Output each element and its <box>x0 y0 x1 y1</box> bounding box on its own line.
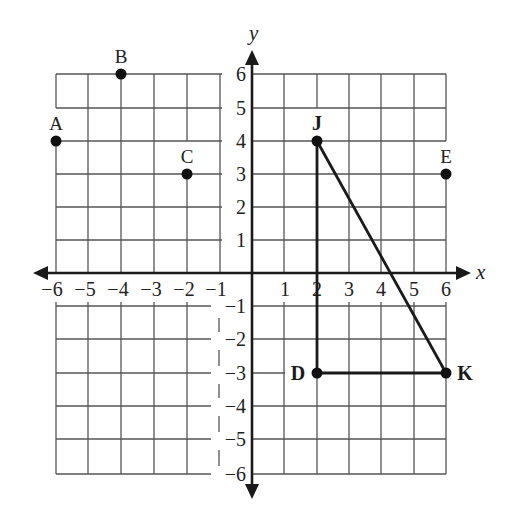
x-tick: −2 <box>173 278 194 300</box>
point-d-label: D <box>291 362 305 384</box>
x-axis-right-arrow-icon <box>456 266 471 280</box>
y-tick: −5 <box>225 428 246 450</box>
point-k-label: K <box>457 362 473 384</box>
point-c-dot <box>182 169 193 180</box>
point-b-label: B <box>115 46 128 67</box>
point-e-dot <box>441 169 452 180</box>
x-tick: −6 <box>41 278 62 300</box>
y-tick: 4 <box>236 130 246 152</box>
x-tick: −4 <box>107 278 128 300</box>
x-tick: 1 <box>280 278 290 300</box>
y-tick: 3 <box>236 163 246 185</box>
point-b-dot <box>116 69 127 80</box>
point-c: C <box>181 146 194 180</box>
point-k-dot <box>441 368 452 379</box>
x-tick-labels: −6 −5 −4 −3 −2 −1 1 2 3 4 5 6 <box>41 278 451 300</box>
point-a: A <box>49 113 63 147</box>
y-tick: −4 <box>225 395 246 417</box>
y-axis <box>245 50 259 499</box>
point-j: J <box>312 112 323 147</box>
y-tick: 5 <box>236 97 246 119</box>
y-axis-label: y <box>247 21 259 45</box>
point-e-label: E <box>440 146 452 167</box>
x-tick: 3 <box>344 278 354 300</box>
point-a-label: A <box>49 113 63 134</box>
x-tick: 6 <box>441 278 451 300</box>
point-j-dot <box>312 136 323 147</box>
y-axis-up-arrow-icon <box>245 50 259 65</box>
point-b: B <box>115 46 128 80</box>
x-tick: −3 <box>140 278 161 300</box>
y-tick: −1 <box>225 295 246 317</box>
x-axis-label: x <box>475 260 486 284</box>
point-e: E <box>440 146 452 180</box>
point-d-dot <box>312 368 323 379</box>
x-tick: −1 <box>205 278 226 300</box>
y-tick: −2 <box>225 328 246 350</box>
x-tick: −5 <box>74 278 95 300</box>
y-tick: 1 <box>236 229 246 251</box>
point-c-label: C <box>181 146 194 167</box>
point-a-dot <box>51 136 62 147</box>
coordinate-plane-figure: y x −6 −5 −4 −3 −2 −1 1 2 3 4 5 6 6 5 4 … <box>0 0 511 531</box>
x-tick: 5 <box>409 278 419 300</box>
point-j-label: J <box>312 112 322 134</box>
y-tick: 2 <box>236 196 246 218</box>
coordinate-plane: y x −6 −5 −4 −3 −2 −1 1 2 3 4 5 6 6 5 4 … <box>0 0 511 531</box>
y-tick: −6 <box>225 463 246 485</box>
y-tick: 6 <box>236 63 246 85</box>
y-tick: −3 <box>225 362 246 384</box>
x-tick: 4 <box>376 278 386 300</box>
y-axis-down-arrow-icon <box>245 484 259 499</box>
